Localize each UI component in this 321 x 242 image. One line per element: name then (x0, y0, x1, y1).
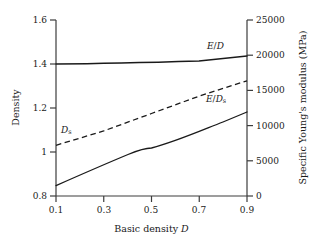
ytick-label-right-5: 0 (256, 192, 262, 201)
series-line-e-over-d-s (56, 112, 247, 186)
ytick-label-right-4: 5000 (256, 157, 279, 166)
right-axis-ticks (247, 20, 253, 196)
x-axis-title: Basic density D (56, 223, 247, 234)
ytick-label-right-0: 25000 (256, 16, 285, 25)
left-axis-ticks (50, 20, 56, 196)
series-annotation-e-over-d-s-sub: s (223, 97, 226, 105)
series-line-d-s (56, 81, 247, 146)
xtick-label-2: 0.5 (136, 206, 166, 215)
y-axis-title-left: Density (10, 78, 21, 138)
ytick-label-right-1: 20000 (256, 51, 285, 60)
ytick-label-left-0: 1.6 (20, 16, 47, 25)
series-line-e-over-d (56, 56, 247, 64)
ytick-label-right-2: 15000 (256, 86, 285, 95)
series-annotation-e-over-d-den: D (217, 41, 224, 51)
ytick-label-left-1: 1.4 (20, 60, 47, 69)
series-annotation-d-s: Ds (61, 125, 72, 136)
x-axis-title-text: Basic density (114, 223, 181, 234)
y-axis-title-right: Specific Young's modulus (MPa) (297, 28, 308, 188)
series-annotation-e-over-d-s-den: D (216, 94, 223, 104)
x-axis-title-symbol: D (181, 223, 189, 234)
y-axis-title-right-text: Specific Young's modulus (MPa) (297, 31, 308, 185)
y-axis-title-left-text: Density (10, 89, 21, 125)
chart-figure: 1.6 1.4 1.2 1 0.8 25000 20000 15000 1000… (0, 0, 321, 242)
ytick-label-right-3: 10000 (256, 122, 285, 131)
xtick-label-3: 0.7 (184, 206, 214, 215)
ytick-label-left-3: 1 (20, 148, 47, 157)
series-annotation-d-s-sub: s (68, 128, 71, 136)
ytick-label-left-4: 0.8 (20, 192, 47, 201)
series-annotation-e-over-d-s: E/Ds (206, 94, 226, 105)
series-annotation-e-over-d: E/D (207, 41, 224, 51)
xtick-label-0: 0.1 (41, 206, 71, 215)
series-annotation-e-over-d-s-num: E (206, 94, 213, 104)
xtick-label-1: 0.3 (89, 206, 119, 215)
ytick-label-left-2: 1.2 (20, 104, 47, 113)
series-annotation-e-over-d-num: E (207, 41, 214, 51)
bottom-axis-ticks (56, 196, 247, 202)
xtick-label-4: 0.9 (232, 206, 262, 215)
